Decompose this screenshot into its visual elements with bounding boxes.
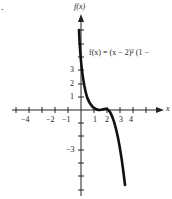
x-tick-label: −1 bbox=[62, 116, 71, 124]
x-tick-label: 4 bbox=[129, 116, 133, 124]
y-tick-label: 2 bbox=[70, 80, 74, 88]
chart-canvas bbox=[0, 0, 172, 199]
function-label: f(x) = (x − 2)² (1 − bbox=[89, 49, 149, 57]
x-axis-arrow-icon bbox=[156, 107, 164, 113]
x-tick-label: 3 bbox=[119, 116, 123, 124]
corner-mark: . bbox=[1, 2, 4, 12]
x-tick-label: 2 bbox=[105, 116, 109, 124]
x-tick-label: 1 bbox=[93, 116, 97, 124]
x-tick-label: −4 bbox=[21, 116, 30, 124]
y-tick-label: −3 bbox=[66, 146, 75, 154]
y-tick-label: 1 bbox=[70, 93, 74, 101]
x-axis-label: x bbox=[166, 105, 170, 113]
y-axis-arrow-icon bbox=[78, 14, 84, 22]
y-axis-label: f(x) bbox=[74, 3, 85, 11]
y-tick-label: 3 bbox=[70, 66, 74, 74]
x-tick-label: −2 bbox=[46, 116, 55, 124]
